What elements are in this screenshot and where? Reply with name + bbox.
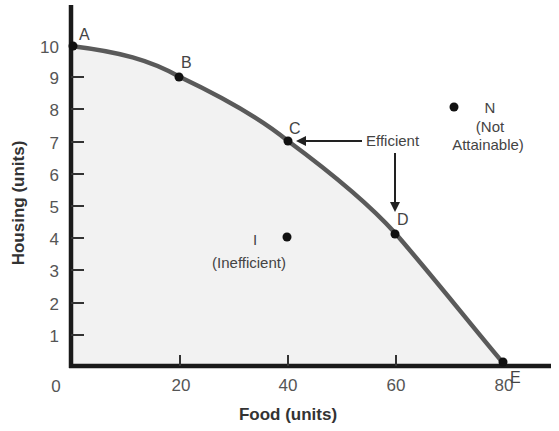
point-c — [284, 137, 293, 146]
label-c: C — [289, 120, 301, 137]
point-e — [499, 358, 508, 367]
svg-text:2: 2 — [50, 295, 59, 314]
label-n: N — [485, 99, 496, 116]
label-d: D — [397, 211, 409, 228]
label-e: E — [510, 369, 521, 386]
svg-text:3: 3 — [50, 262, 59, 281]
svg-text:1: 1 — [50, 327, 59, 346]
svg-text:7: 7 — [50, 134, 59, 153]
point-a — [69, 42, 78, 51]
label-b: B — [181, 54, 192, 71]
label-inefficient: (Inefficient) — [212, 254, 286, 271]
svg-text:6: 6 — [50, 166, 59, 185]
svg-text:4: 4 — [50, 230, 59, 249]
origin-label: 0 — [51, 377, 60, 396]
point-b — [175, 73, 184, 82]
label-not: (Not — [476, 118, 505, 135]
label-attainable: Attainable) — [452, 136, 524, 153]
svg-text:40: 40 — [279, 376, 298, 395]
svg-text:60: 60 — [387, 376, 406, 395]
label-a: A — [79, 26, 90, 43]
label-efficient: Efficient — [366, 132, 420, 149]
x-tick-labels: 0 20 40 60 80 — [51, 376, 513, 396]
y-axis-title: Housing (units) — [9, 141, 28, 266]
svg-text:5: 5 — [50, 198, 59, 217]
svg-text:20: 20 — [172, 376, 191, 395]
y-tick-labels: 10 9 8 7 6 5 4 3 2 1 — [40, 38, 59, 346]
point-d — [391, 230, 400, 239]
point-i — [283, 233, 292, 242]
svg-text:8: 8 — [50, 101, 59, 120]
ppf-chart: 10 9 8 7 6 5 4 3 2 1 0 20 40 60 80 Food … — [0, 0, 559, 431]
point-n — [450, 103, 459, 112]
label-i: I — [253, 231, 257, 248]
svg-text:10: 10 — [40, 38, 59, 57]
feasible-region — [71, 46, 504, 366]
svg-text:9: 9 — [50, 69, 59, 88]
x-axis-title: Food (units) — [239, 405, 337, 424]
